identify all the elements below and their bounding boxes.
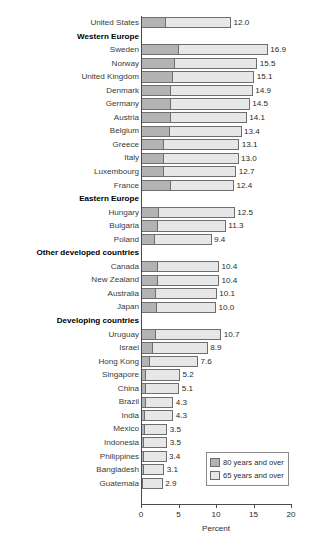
- chart-data-row: Norway15.5: [0, 57, 311, 71]
- bar-value-label: 14.9: [253, 85, 271, 96]
- chart-data-row: Bulgaria11.3: [0, 219, 311, 233]
- category-label: Italy: [124, 151, 139, 165]
- bar-value-label: 10.4: [219, 275, 237, 286]
- bar-value-label: 16.9: [268, 44, 286, 55]
- bar-group: 12.5: [141, 207, 235, 218]
- chart-data-row: Sweden16.9: [0, 43, 311, 57]
- x-axis-tick-label: 5: [176, 510, 181, 519]
- bar-group: 3.1: [141, 464, 164, 475]
- bar-value-label: 12.0: [231, 17, 249, 28]
- bar-80-plus: [141, 356, 150, 367]
- bar-80-plus: [141, 180, 171, 191]
- chart-data-row: Austria14.1: [0, 111, 311, 125]
- category-label: Brazil: [119, 395, 139, 409]
- bar-value-label: 5.2: [180, 369, 194, 380]
- bar-value-label: 12.5: [235, 207, 253, 218]
- bar-80-plus: [141, 126, 170, 137]
- bar-group: 13.0: [141, 153, 239, 164]
- category-label: Indonesia: [104, 436, 139, 450]
- bar-group: 11.3: [141, 220, 226, 231]
- bar-group: 13.1: [141, 139, 239, 150]
- bar-65-plus: [141, 478, 163, 489]
- bar-value-label: 14.1: [247, 112, 265, 123]
- bar-80-plus: [141, 275, 158, 286]
- category-label: Hungary: [108, 206, 139, 220]
- bar-value-label: 5.1: [179, 383, 193, 394]
- bar-group: 10.7: [141, 329, 221, 340]
- bar-group: 2.9: [141, 478, 163, 489]
- x-axis-tick-label: 20: [286, 510, 295, 519]
- bar-value-label: 14.5: [250, 98, 268, 109]
- category-label: Belgium: [110, 124, 139, 138]
- bar-80-plus: [141, 261, 158, 272]
- bar-65-plus: [141, 464, 164, 475]
- bar-value-label: 13.4: [242, 126, 260, 137]
- bar-65-plus: [141, 410, 173, 421]
- chart-group-row: Eastern Europe: [0, 192, 311, 206]
- chart-rows: United States12.0Western EuropeSweden16.…: [0, 16, 311, 490]
- bar-value-label: 13.1: [239, 139, 257, 150]
- x-axis-tick: [216, 504, 217, 508]
- category-label: Hong Kong: [98, 355, 139, 369]
- bar-65-plus: [141, 451, 167, 462]
- bar-value-label: 9.4: [212, 234, 226, 245]
- bar-group: 7.6: [141, 356, 198, 367]
- category-label: Bulgaria: [109, 219, 139, 233]
- chart-data-row: Denmark14.9: [0, 84, 311, 98]
- bar-value-label: 15.1: [254, 71, 272, 82]
- bar-65-plus: [141, 424, 167, 435]
- x-axis-tick-label: 0: [139, 510, 144, 519]
- bar-65-plus: [141, 383, 179, 394]
- bar-80-plus: [141, 112, 171, 123]
- chart-data-row: Singapore5.2: [0, 368, 311, 382]
- bar-80-plus: [141, 302, 157, 313]
- bar-65-plus: [141, 437, 167, 448]
- bar-value-label: 12.4: [234, 180, 252, 191]
- bar-80-plus: [141, 288, 156, 299]
- bar-value-label: 4.3: [173, 397, 187, 408]
- chart-legend: 80 years and over 65 years and over: [206, 452, 289, 486]
- chart-data-row: Hong Kong7.6: [0, 355, 311, 369]
- category-label: Canada: [111, 260, 139, 274]
- category-label: Norway: [112, 57, 139, 71]
- category-label: Sweden: [110, 43, 139, 57]
- group-label: Western Europe: [77, 30, 139, 44]
- chart-group-row: Western Europe: [0, 30, 311, 44]
- bar-group: 9.4: [141, 234, 212, 245]
- category-label: Denmark: [106, 84, 139, 98]
- bar-group: 10.1: [141, 288, 217, 299]
- bar-group: 4.3: [141, 410, 173, 421]
- chart-data-row: Uruguay10.7: [0, 328, 311, 342]
- chart-group-row: Developing countries: [0, 314, 311, 328]
- bar-80-plus: [141, 166, 164, 177]
- bar-group: 4.3: [141, 397, 173, 408]
- bar-value-label: 11.3: [226, 220, 244, 231]
- category-label: Israel: [119, 341, 139, 355]
- category-label: Mexico: [113, 422, 139, 436]
- x-axis-tick-label: 15: [249, 510, 258, 519]
- category-label: Luxembourg: [94, 165, 139, 179]
- bar-group: 13.4: [141, 126, 242, 137]
- legend-label-65-plus: 65 years and over: [223, 471, 284, 480]
- category-label: Singapore: [102, 368, 139, 382]
- bar-group: 3.5: [141, 424, 167, 435]
- bar-group: 3.4: [141, 451, 167, 462]
- bar-group: 12.7: [141, 166, 236, 177]
- category-label: Australia: [108, 287, 140, 301]
- chart-data-row: Mexico3.5: [0, 422, 311, 436]
- bar-80-plus: [141, 207, 159, 218]
- bar-value-label: 7.6: [198, 356, 212, 367]
- category-label: Greece: [112, 138, 139, 152]
- chart-data-row: India4.3: [0, 409, 311, 423]
- bar-value-label: 13.0: [239, 153, 257, 164]
- bar-group: 10.4: [141, 261, 219, 272]
- bar-80-plus: [141, 234, 155, 245]
- chart-data-row: Australia10.1: [0, 287, 311, 301]
- category-label: Philippines: [100, 450, 139, 464]
- bar-80-plus: [141, 329, 156, 340]
- bar-80-plus: [141, 139, 164, 150]
- group-label: Other developed countries: [36, 246, 139, 260]
- chart-data-row: New Zealand10.4: [0, 273, 311, 287]
- category-label: Germany: [106, 97, 139, 111]
- chart-data-row: Japan10.0: [0, 300, 311, 314]
